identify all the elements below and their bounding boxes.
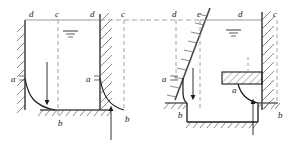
left-panel: d c d c a a b b — [11, 9, 146, 140]
right-wall-hatch — [100, 13, 112, 110]
label-b-bottom-left-right: b — [178, 110, 183, 120]
label-c-top-mid: c — [55, 9, 59, 19]
label-c-top-right: c — [273, 9, 277, 19]
water-level-marker-right — [226, 30, 241, 36]
label-a-left: a — [11, 74, 16, 84]
hatched-ledge-block — [222, 72, 262, 84]
right-ground-hatch-right — [257, 103, 280, 109]
label-d-top-mid: d — [238, 9, 243, 19]
label-d-top-far-left: d — [172, 9, 177, 19]
label-c-top-far: c — [121, 9, 125, 19]
left-pressure-curve — [25, 78, 55, 110]
label-a-right: a — [86, 74, 91, 84]
left-ground-hatch-right — [164, 103, 188, 109]
label-a-left-right: a — [162, 74, 167, 84]
left-wall-hatch — [17, 24, 25, 113]
label-d-top-right: d — [90, 9, 95, 19]
inclined-wall-line — [175, 8, 210, 100]
label-b-bottom-right-right: b — [278, 110, 283, 120]
label-a-mid: a — [232, 85, 237, 95]
label-d-top-left: d — [29, 9, 34, 19]
bottom-ground-hatch — [38, 110, 112, 116]
label-b-bottom-left: b — [58, 118, 63, 128]
left-a-tick-right — [170, 76, 178, 80]
inclined-wall-hatch — [167, 14, 207, 97]
figure-root: d c d c a a b b — [0, 0, 291, 152]
right-panel: d c d c a a b b — [146, 8, 283, 135]
label-c-top-left: c — [197, 9, 201, 19]
right-pressure-curve — [100, 78, 124, 110]
channel-floor-hatch — [186, 122, 258, 128]
right-wall-hatch-right — [262, 11, 274, 110]
left-pressure-curve-right — [183, 78, 187, 103]
right-pressure-curve-right — [238, 84, 258, 103]
water-level-marker — [63, 31, 78, 37]
label-b-bottom-right: b — [125, 114, 130, 124]
diagram-canvas: d c d c a a b b — [0, 0, 291, 152]
